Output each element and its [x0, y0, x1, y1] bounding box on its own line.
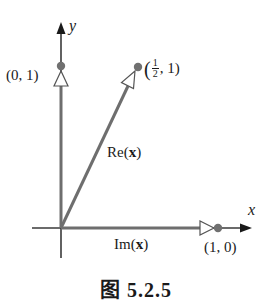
- vector-re-arrowhead-icon: [122, 71, 136, 89]
- point-label-1-0: (1, 0): [204, 240, 237, 255]
- figure-caption: 图 5.2.5: [100, 274, 172, 303]
- vector-im-arrowhead-icon: [200, 221, 214, 235]
- point-label-0-1: (0, 1): [6, 68, 39, 83]
- y-axis-label: y: [69, 18, 76, 34]
- vector-arrowhead-icon: [54, 71, 68, 86]
- point-dot-half-1: [134, 63, 142, 71]
- vector-re-label: Re(x): [107, 145, 141, 160]
- x-axis-label: x: [248, 202, 255, 218]
- y-axis-arrow-icon: [57, 22, 66, 34]
- point-dot-1-0: [214, 224, 222, 232]
- fraction-one-half: 12: [152, 58, 159, 79]
- point-label-rest: , 1): [160, 60, 180, 76]
- point-dot-0-1: [57, 62, 65, 70]
- vector-im-label: Im(x): [114, 237, 148, 252]
- x-axis-arrow-icon: [240, 224, 252, 233]
- paren-open: (: [144, 58, 151, 80]
- point-label-half-1: (12, 1): [144, 58, 180, 79]
